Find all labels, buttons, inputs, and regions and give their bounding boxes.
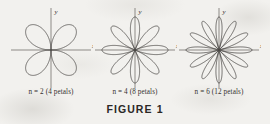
y-axis-label: y [54,8,59,16]
rose-curve-svg: yx [177,4,261,92]
rose-curve-svg: yx [9,4,93,92]
plot-label-n6: n = 6 (12 petals) [177,88,261,96]
y-axis-label: y [222,8,227,16]
figure-container: yx yx yx n = 2 (4 petals) n = 4 (8 petal… [0,0,270,124]
plot-label-n2: n = 2 (4 petals) [9,88,93,96]
plot-label-n4: n = 4 (8 petals) [93,88,177,96]
polar-plot-n2: yx [9,4,93,92]
y-axis-label: y [138,8,143,16]
x-axis-label: x [259,42,261,50]
plot-labels-row: n = 2 (4 petals) n = 4 (8 petals) n = 6 … [0,88,270,102]
rose-curve-svg: yx [93,4,177,92]
polar-plot-n6: yx [177,4,261,92]
polar-plot-n4: yx [93,4,177,92]
figure-caption: FIGURE 1 [0,103,270,115]
